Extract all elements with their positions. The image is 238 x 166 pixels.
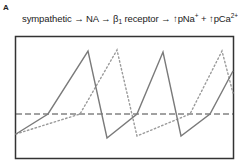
plot-frame — [16, 37, 234, 159]
dotted-trace — [16, 50, 233, 136]
plot-area — [0, 0, 238, 166]
